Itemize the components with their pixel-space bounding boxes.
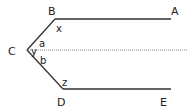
- label-point-d: D: [57, 96, 65, 109]
- label-point-c: C: [8, 45, 16, 58]
- label-point-e: E: [160, 96, 167, 109]
- label-point-a: A: [171, 5, 179, 18]
- label-angle-z: z: [62, 77, 67, 88]
- geometry-diagram: A B C D E x a y b z: [0, 0, 187, 109]
- label-angle-x: x: [56, 23, 62, 34]
- label-angle-a: a: [39, 38, 45, 49]
- label-angle-y: y: [31, 46, 37, 57]
- label-point-b: B: [48, 5, 56, 18]
- label-angle-b: b: [40, 55, 46, 66]
